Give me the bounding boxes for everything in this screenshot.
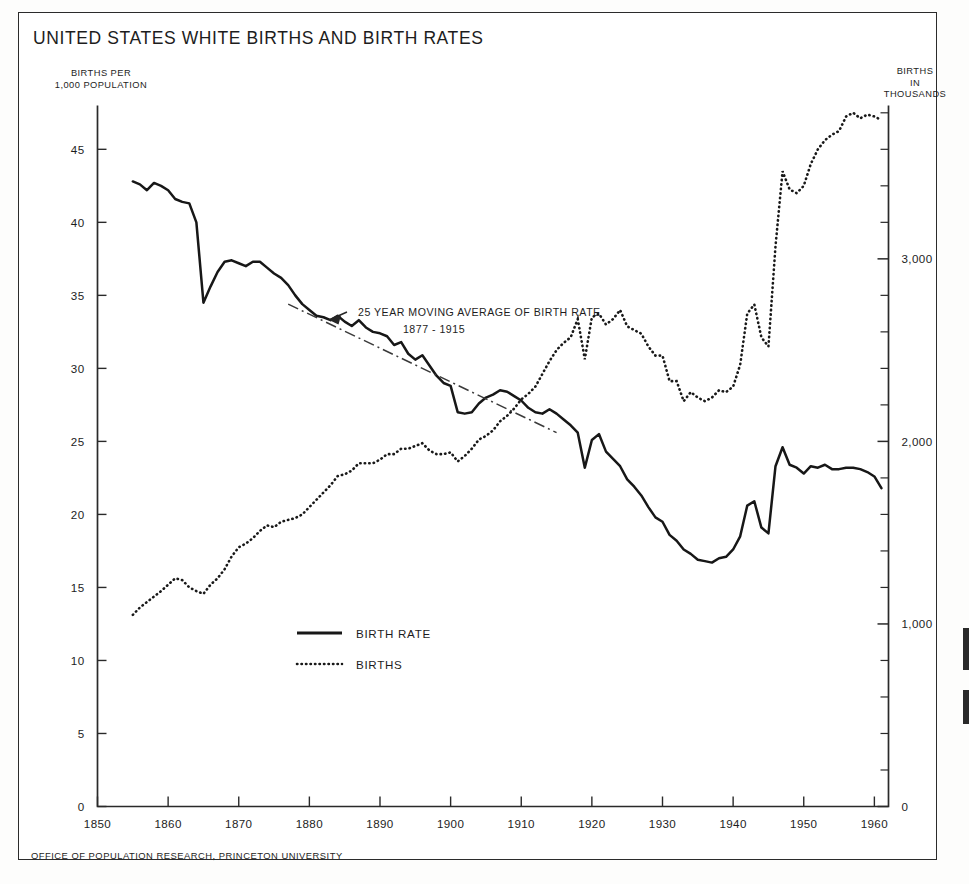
series-layer <box>133 113 882 615</box>
axes-layer: 0510152025303540451,0002,0003,0000185018… <box>71 106 933 830</box>
page-edge-artifact-bottom <box>963 690 969 724</box>
y-axis-tick-label: 20 <box>71 508 85 521</box>
y-axis-tick-label: 35 <box>71 289 85 302</box>
y2-axis-tick-label: 2,000 <box>902 435 933 448</box>
x-axis-tick-label: 1870 <box>225 817 252 830</box>
legend-layer: BIRTH RATEBIRTHS <box>297 627 431 671</box>
chart-plot: 0510152025303540451,0002,0003,0000185018… <box>0 0 969 884</box>
annotation-line2: 1877 - 1915 <box>403 323 465 335</box>
source-note: OFFICE OF POPULATION RESEARCH, PRINCETON… <box>31 850 343 861</box>
series-line-births <box>133 113 882 615</box>
plot-frame <box>98 106 889 807</box>
x-axis-tick-label: 1900 <box>437 817 464 830</box>
annotation-line1: 25 YEAR MOVING AVERAGE OF BIRTH RATE <box>358 306 601 318</box>
x-axis-tick-label: 1890 <box>366 817 393 830</box>
legend-label: BIRTH RATE <box>356 627 431 640</box>
x-axis-tick-label: 1940 <box>719 817 746 830</box>
y2-axis-zero-label: 0 <box>902 800 909 813</box>
y-axis-tick-label: 0 <box>78 800 85 813</box>
x-axis-tick-label: 1880 <box>296 817 323 830</box>
y-axis-tick-label: 30 <box>71 362 85 375</box>
x-axis-tick-label: 1910 <box>508 817 535 830</box>
chart-page: UNITED STATES WHITE BIRTHS AND BIRTH RAT… <box>0 0 969 884</box>
page-edge-artifact-top <box>963 628 969 670</box>
x-axis-tick-label: 1930 <box>649 817 676 830</box>
y-axis-tick-label: 10 <box>71 654 85 667</box>
x-axis-tick-label: 1950 <box>790 817 817 830</box>
y2-axis-tick-label: 3,000 <box>902 252 933 265</box>
y-axis-tick-label: 40 <box>71 216 85 229</box>
legend-label: BIRTHS <box>356 658 403 671</box>
y-axis-tick-label: 25 <box>71 435 85 448</box>
y-axis-tick-label: 45 <box>71 143 85 156</box>
x-axis-tick-label: 1860 <box>154 817 181 830</box>
x-axis-tick-label: 1850 <box>84 817 111 830</box>
y-axis-tick-label: 15 <box>71 581 85 594</box>
y2-axis-tick-label: 1,000 <box>902 617 933 630</box>
series-line-birth-rate <box>133 181 882 562</box>
y-axis-tick-label: 5 <box>78 727 85 740</box>
x-axis-tick-label: 1960 <box>861 817 888 830</box>
x-axis-tick-label: 1920 <box>578 817 605 830</box>
